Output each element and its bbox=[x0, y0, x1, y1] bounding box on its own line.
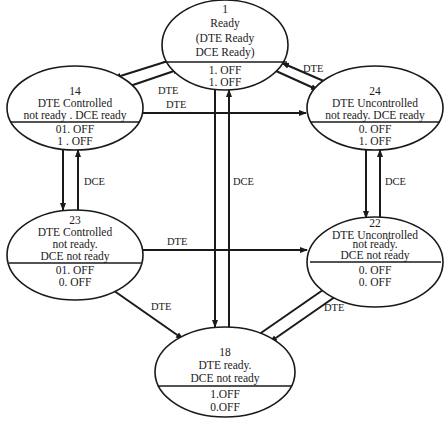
edge-label-14-23: DCE bbox=[84, 176, 105, 187]
state-23-line: DCE not ready bbox=[41, 250, 110, 263]
state-18-line: DCE not ready bbox=[191, 372, 260, 385]
state-24-output: 0. OFF bbox=[359, 123, 392, 135]
state-22-output: 0. OFF bbox=[359, 264, 392, 276]
state-diagram: DTE DTE DTE DCE DCE DCE DTE DTE DTE bbox=[0, 0, 447, 421]
state-24: 24 DTE Uncontrolled not ready. DCE ready… bbox=[307, 66, 443, 150]
state-14-number: 14 bbox=[69, 85, 81, 97]
edge-label-1-18: DCE bbox=[233, 176, 254, 187]
edge-label-23-22: DTE bbox=[167, 236, 187, 247]
state-24-line: DTE Uncontrolled bbox=[332, 97, 418, 109]
state-22-number: 22 bbox=[369, 217, 381, 229]
state-1: 1 Ready (DTE Ready DCE Ready) 1. OFF 1. … bbox=[162, 0, 288, 90]
edge-label-23-18: DTE bbox=[151, 301, 171, 312]
state-24-line: not ready. DCE ready bbox=[325, 109, 425, 122]
state-18-number: 18 bbox=[219, 346, 231, 358]
state-23-output: 0. OFF bbox=[59, 276, 92, 288]
state-1-number: 1 bbox=[222, 3, 228, 15]
state-14: 14 DTE Controlled not ready . DCE ready … bbox=[7, 66, 143, 150]
state-23-output: 01. OFF bbox=[56, 264, 94, 276]
state-18-output: 0.OFF bbox=[210, 401, 240, 413]
state-1-output: 1. OFF bbox=[209, 64, 242, 76]
state-22-output: 0. OFF bbox=[359, 276, 392, 288]
state-14-output: 01. OFF bbox=[56, 123, 94, 135]
state-14-line: DTE Controlled bbox=[38, 97, 113, 109]
state-24-number: 24 bbox=[369, 85, 381, 97]
state-22: 22 DTE Uncontrolled not ready. DCE not r… bbox=[307, 217, 443, 307]
state-23: 23 DTE Controlled not ready. DCE not rea… bbox=[7, 210, 143, 300]
state-1-output: 1. OFF bbox=[209, 76, 242, 88]
state-18-line: DTE ready. bbox=[199, 359, 252, 372]
state-1-line: Ready bbox=[210, 17, 240, 30]
edge-label-14-24: DTE bbox=[166, 99, 186, 110]
edge-22-to-18 bbox=[270, 292, 342, 342]
edge-label-24-22: DCE bbox=[385, 176, 406, 187]
edge-label-1-14: DTE bbox=[158, 85, 178, 96]
state-1-line: (DTE Ready bbox=[196, 32, 255, 45]
edge-label-1-24: DTE bbox=[303, 63, 323, 74]
state-23-number: 23 bbox=[69, 214, 81, 226]
state-23-line: DTE Controlled bbox=[38, 226, 113, 238]
state-14-line: not ready . DCE ready bbox=[23, 109, 126, 122]
state-14-output: 1 . OFF bbox=[57, 135, 92, 147]
edge-label-18-22: DTE bbox=[324, 302, 344, 313]
state-22-line: DCE not ready bbox=[341, 249, 410, 262]
state-18: 18 DTE ready. DCE not ready 1.OFF 0.OFF bbox=[155, 327, 295, 417]
edge-23-to-18 bbox=[110, 288, 183, 339]
state-1-line: DCE Ready) bbox=[195, 46, 254, 59]
state-18-output: 1.OFF bbox=[210, 388, 240, 400]
state-24-output: 1. OFF bbox=[359, 135, 392, 147]
